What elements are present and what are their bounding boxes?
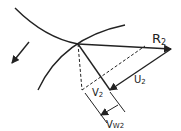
blade-curve-outer: [15, 8, 78, 44]
diagram-canvas: R2 U2 V2 VW2: [0, 0, 181, 131]
vw2-dimension: [101, 105, 118, 115]
dashed-projection: [78, 44, 82, 90]
v2-label: V2: [92, 87, 103, 99]
u2-label: U2: [134, 74, 146, 86]
r2-label: R2: [152, 31, 166, 47]
v2-vector: [78, 44, 110, 90]
vw2-extension-right: [110, 92, 125, 112]
vw2-label: VW2: [106, 119, 124, 130]
rotation-arrow: [12, 42, 29, 63]
velocity-diagram: R2 U2 V2 VW2: [0, 0, 181, 131]
